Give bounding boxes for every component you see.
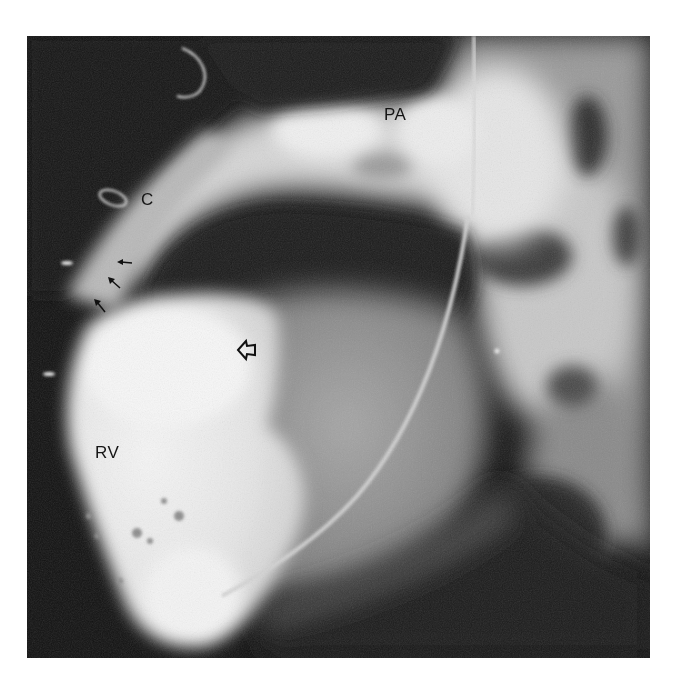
angiogram-image: PA C RV <box>27 36 650 658</box>
open-arrow-left-icon <box>237 339 257 361</box>
label-c: C <box>141 191 154 208</box>
label-pa: PA <box>384 106 406 123</box>
arrow-left-icon <box>117 258 133 268</box>
label-rv: RV <box>95 444 119 461</box>
arrow-up-left-icon <box>107 276 121 290</box>
arrow-up-left-icon <box>93 298 107 314</box>
radiograph-graphic <box>27 36 650 658</box>
